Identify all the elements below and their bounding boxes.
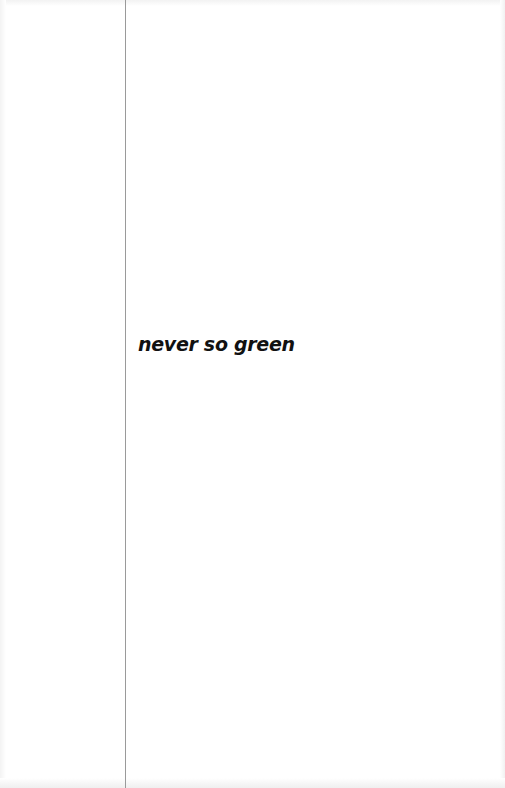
book-page: never so green: [0, 0, 505, 788]
scan-edge-left: [0, 0, 6, 788]
scan-edge-right: [500, 0, 505, 788]
section-title: never so green: [138, 331, 295, 357]
vertical-rule: [125, 0, 126, 788]
scan-edge-top: [0, 0, 505, 6]
scan-edge-bottom: [0, 778, 505, 788]
